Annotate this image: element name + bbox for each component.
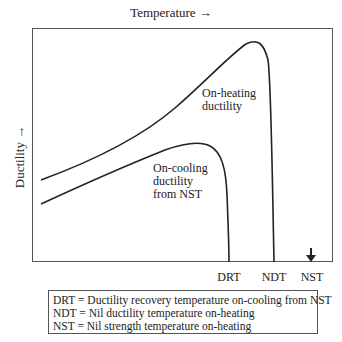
nst-arrow-icon xyxy=(306,248,316,262)
legend-entry-nst: NST = Nil strength temperature on-heatin… xyxy=(53,320,317,333)
legend-box: DRT = Ductility recovery temperature on-… xyxy=(48,290,318,334)
heating-curve xyxy=(41,42,274,262)
heating-label-line2: ductility xyxy=(202,100,256,113)
legend-entry-drt: DRT = Ductility recovery temperature on-… xyxy=(53,294,317,307)
marker-ndt: NDT xyxy=(262,270,287,285)
cooling-curve-label: On-cooling ductility from NST xyxy=(153,162,208,201)
heating-curve-label: On-heating ductility xyxy=(202,87,256,113)
legend-entry-ndt: NDT = Nil ductility temperature on-heati… xyxy=(53,307,317,320)
marker-nst: NST xyxy=(301,270,324,285)
cooling-label-line3: from NST xyxy=(153,188,208,201)
marker-drt: DRT xyxy=(217,270,240,285)
